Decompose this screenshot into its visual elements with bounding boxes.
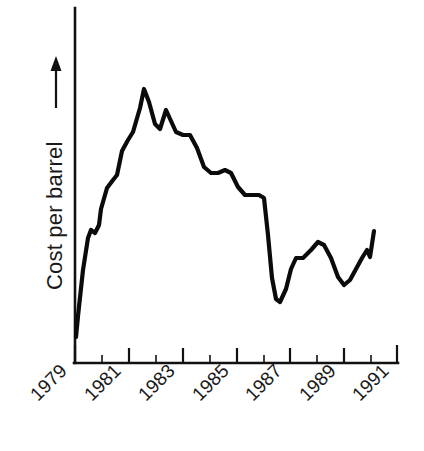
y-axis-up-arrow-icon xyxy=(51,56,62,108)
y-axis-label: Cost per barrel xyxy=(42,141,67,290)
cost-per-barrel-data-line xyxy=(76,89,374,337)
x-tick-label-1981: 1981 xyxy=(80,360,125,405)
x-axis-major-ticks xyxy=(75,345,397,363)
chart-container: Cost per barrel 1979 1981 1983 1985 1987… xyxy=(0,0,424,451)
x-tick-label-1989: 1989 xyxy=(295,360,340,405)
x-tick-label-1983: 1983 xyxy=(134,360,179,405)
cost-per-barrel-line-chart: Cost per barrel 1979 1981 1983 1985 1987… xyxy=(0,0,424,451)
x-tick-label-1979: 1979 xyxy=(26,360,71,405)
x-axis-tick-labels: 1979 1981 1983 1985 1987 1989 1991 xyxy=(26,360,393,405)
x-tick-label-1991: 1991 xyxy=(348,360,393,405)
x-tick-label-1985: 1985 xyxy=(188,360,233,405)
x-tick-label-1987: 1987 xyxy=(241,360,286,405)
